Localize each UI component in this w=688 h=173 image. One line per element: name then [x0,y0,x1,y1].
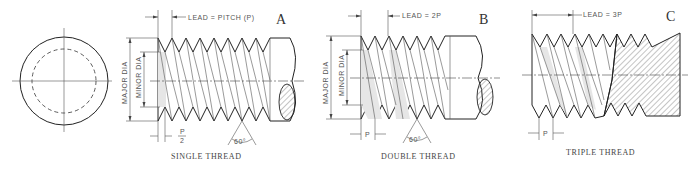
panel-letter-c: C [666,9,675,24]
lead-label-b: LEAD = 2P [402,12,441,19]
panel-double-thread [326,10,500,143]
angle-label-a: 60° [234,138,246,145]
panel-single-thread [126,10,305,145]
pitch-den-a: 2 [180,137,184,144]
caption-single-thread: SINGLE THREAD [171,152,242,161]
pitch-num-a: P [180,128,185,135]
angle-label-b: 60° [409,136,421,143]
minor-dia-label-b: MINOR DIA [338,55,345,96]
panel-letter-a: A [276,12,287,27]
major-dia-label-a: MAJOR DIA [121,61,128,104]
lead-label-c: LEAD = 3P [583,11,622,18]
pitch-label-c: P [543,130,548,137]
panel-letter-b: B [479,12,488,27]
panel-triple-thread [522,10,688,140]
major-dia-label-b: MAJOR DIA [322,61,329,104]
end-view [12,28,112,132]
thread-diagram: LEAD = PITCH (P) A MAJOR DIA MINOR DIA P… [0,0,688,173]
lead-label-a: LEAD = PITCH (P) [188,14,255,22]
caption-double-thread: DOUBLE THREAD [381,152,456,161]
pitch-label-b: P [365,131,370,138]
caption-triple-thread: TRIPLE THREAD [566,148,635,157]
minor-dia-label-a: MINOR DIA [135,57,142,98]
